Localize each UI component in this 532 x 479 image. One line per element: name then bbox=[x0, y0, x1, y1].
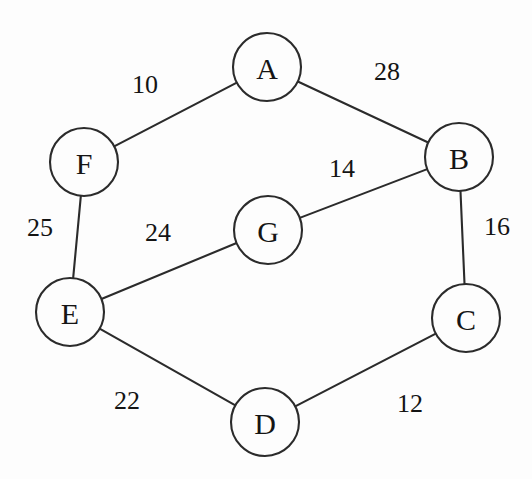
graph-edge-g-b bbox=[300, 169, 427, 218]
graph-diagram-canvas: ABCDEFG 1028141625242212 bbox=[0, 0, 532, 479]
edge-weight-e-g: 24 bbox=[145, 218, 171, 247]
graph-node-a[interactable]: A bbox=[233, 33, 301, 101]
graph-node-b[interactable]: B bbox=[425, 123, 493, 191]
nodes-layer: ABCDEFG bbox=[36, 33, 500, 456]
edge-weight-g-b: 14 bbox=[329, 154, 355, 183]
graph-node-d[interactable]: D bbox=[231, 388, 299, 456]
edge-weight-f-e: 25 bbox=[27, 213, 53, 242]
node-label-f: F bbox=[76, 147, 93, 180]
edge-weight-f-a: 10 bbox=[132, 70, 158, 99]
graph-node-e[interactable]: E bbox=[36, 278, 104, 346]
node-label-d: D bbox=[254, 407, 276, 440]
edge-weight-a-b: 28 bbox=[374, 57, 400, 86]
edge-weight-e-d: 22 bbox=[114, 386, 140, 415]
node-label-a: A bbox=[256, 52, 278, 85]
graph-edge-b-c bbox=[460, 191, 464, 284]
graph-node-g[interactable]: G bbox=[234, 196, 302, 264]
edge-weight-b-c: 16 bbox=[484, 212, 510, 241]
node-label-c: C bbox=[456, 303, 476, 336]
node-label-e: E bbox=[61, 297, 79, 330]
graph-node-c[interactable]: C bbox=[432, 284, 500, 352]
edge-weight-d-c: 12 bbox=[397, 389, 423, 418]
graph-edge-f-e bbox=[73, 196, 81, 278]
node-label-g: G bbox=[257, 215, 279, 248]
graph-svg: ABCDEFG 1028141625242212 bbox=[0, 0, 532, 479]
graph-edge-a-b bbox=[298, 81, 428, 142]
graph-node-f[interactable]: F bbox=[50, 128, 118, 196]
graph-edge-e-g bbox=[101, 243, 236, 299]
node-label-b: B bbox=[449, 142, 469, 175]
